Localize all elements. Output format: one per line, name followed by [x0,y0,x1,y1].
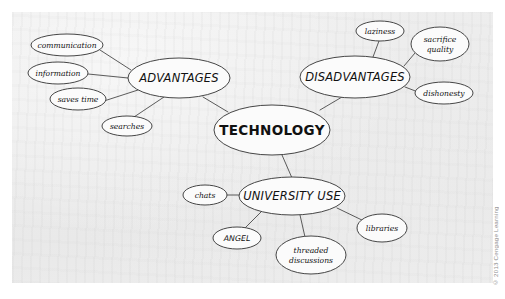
node-label-searches: searches [110,122,144,131]
node-label-saves-time: saves time [58,95,99,104]
node-disadvantages[interactable]: DISADVANTAGES [300,56,410,98]
nodes-layer: communicationinformationsaves timesearch… [28,21,473,274]
node-communication[interactable]: communication [31,34,103,56]
connector-university-use-to-angel [245,211,262,228]
connector-disadvantages-to-laziness [373,41,379,57]
node-label-communication: communication [37,41,96,50]
connector-technology-to-advantages [203,97,228,112]
node-laziness[interactable]: laziness [356,21,404,41]
node-saves-time[interactable]: saves time [50,88,106,110]
copyright-credit: © 2013 Cengage Learning [489,198,503,286]
node-label-information: information [35,69,80,78]
node-label-libraries: libraries [366,224,398,233]
node-label-advantages: ADVANTAGES [138,71,219,85]
connector-technology-to-university-use [282,155,292,178]
node-advantages[interactable]: ADVANTAGES [128,58,230,98]
concept-map-canvas: communicationinformationsaves timesearch… [0,0,505,299]
node-label-university-use: UNIVERSITY USE [243,189,341,203]
node-threaded-discussions[interactable]: threadeddiscussions [276,236,346,274]
node-technology[interactable]: TECHNOLOGY [214,105,330,155]
connector-advantages-to-saves-time [104,90,138,101]
connector-university-use-to-threaded-discussions [300,215,305,237]
node-label-angel: ANGEL [223,234,250,243]
node-label-disadvantages: DISADVANTAGES [305,70,405,84]
concept-map-screenshot: communicationinformationsaves timesearch… [0,0,505,299]
node-chats[interactable]: chats [183,185,227,205]
node-university-use[interactable]: UNIVERSITY USE [239,177,345,215]
node-angel[interactable]: ANGEL [213,227,261,249]
node-label-threaded-discussions: threadeddiscussions [289,246,333,265]
node-label-sacrifice-quality: sacrificequality [424,35,457,54]
node-dishonesty[interactable]: dishonesty [415,82,473,104]
node-label-dishonesty: dishonesty [423,89,465,98]
connector-advantages-to-information [88,74,128,78]
connector-disadvantages-to-sacrifice-quality [404,53,415,66]
node-label-chats: chats [195,191,216,200]
connector-advantages-to-searches [134,97,164,117]
node-searches[interactable]: searches [102,116,152,136]
node-libraries[interactable]: libraries [357,214,407,242]
connector-advantages-to-communication [100,50,131,70]
node-label-laziness: laziness [365,27,396,36]
node-sacrifice-quality[interactable]: sacrificequality [411,27,469,61]
connector-technology-to-disadvantages [320,97,342,110]
node-information[interactable]: information [28,62,88,84]
node-label-technology: TECHNOLOGY [219,122,325,138]
